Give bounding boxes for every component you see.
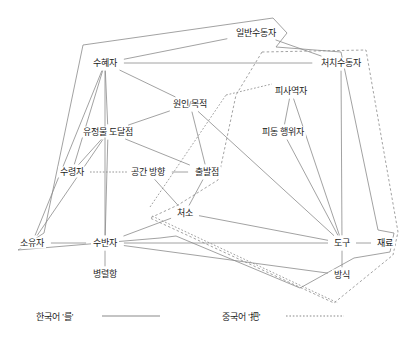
edge-pisayeokja-dogu	[294, 99, 340, 236]
edge-suhyeja-suryeongja	[74, 71, 102, 165]
node-gonggan_banghyang[interactable]: 공간 방향	[129, 167, 167, 178]
edge-pisayeokja-pidong_haengwija	[285, 99, 290, 125]
node-pidong_haengwija[interactable]: 피동 행위자	[260, 127, 306, 138]
edge-wonin_mokjeok-yujeongmul	[128, 111, 170, 125]
edge-chulbaljeom-cheoso	[189, 180, 203, 206]
edge-cheoso-pisayeokja-dotted	[150, 95, 226, 207]
node-dogu[interactable]: 도구	[332, 238, 352, 249]
edge-suhyeja-yujeongmul	[105, 71, 107, 125]
legend-item-korean: 한국어 '를'	[36, 310, 74, 323]
node-cheoso[interactable]: 처소	[175, 208, 195, 219]
edge-chichi_sudongja-dogu	[341, 71, 342, 236]
edge-suhyeja-wonin_mokjeok	[120, 70, 176, 97]
edge-cheoso-subanja	[123, 218, 171, 236]
legend-item-chinese: 중국어 '把'	[222, 310, 261, 323]
node-yujeongmul[interactable]: 유정물 도달점	[81, 127, 135, 138]
edge-yujeongmul-subanja	[105, 140, 108, 236]
edge-crossing-pisayeokja-dotted	[226, 84, 272, 95]
edge-yujeongmul-chulbaljeom	[125, 139, 190, 165]
edge-ilban_sudongja-chichi_sudongja	[276, 40, 322, 56]
node-wonin_mokjeok[interactable]: 원인/목적	[171, 99, 210, 110]
edge-cheoso-bangsik-dotted	[152, 216, 338, 303]
node-bangsik[interactable]: 방식	[332, 270, 352, 281]
node-subanja[interactable]: 수반자	[91, 238, 119, 249]
edge-layer	[35, 39, 371, 273]
edge-yujeongmul-soyuja	[37, 139, 103, 235]
semantic-map-diagram: 일반수동자수혜자처치수동자피사역자원인/목적피동 행위자유정물 도달점수령자공간…	[0, 0, 412, 342]
node-byeongryeolhang[interactable]: 병렬항	[91, 269, 119, 280]
node-ilban_sudongja[interactable]: 일반수동자	[234, 28, 278, 39]
edge-yujeongmul-suryeongja	[79, 139, 102, 164]
edge-cheoso-dogu	[199, 216, 328, 241]
edge-suhyeja-soyuja	[35, 71, 102, 236]
edge-wonin_mokjeok-chulbaljeom	[192, 112, 205, 165]
node-suhyeja[interactable]: 수혜자	[91, 58, 119, 69]
edge-ilban_sudongja-suhyeja	[124, 39, 227, 60]
node-soyuja[interactable]: 소유자	[18, 238, 46, 249]
node-chichi_sudongja[interactable]: 처치수동자	[319, 58, 363, 69]
edge-subanja-bangsik	[124, 246, 328, 274]
node-suryeongja[interactable]: 수령자	[58, 167, 86, 178]
node-pisayeokja[interactable]: 피사역자	[273, 86, 309, 97]
node-jaeryo[interactable]: 재료	[375, 238, 395, 249]
node-chulbaljeom[interactable]: 출발점	[193, 167, 221, 178]
